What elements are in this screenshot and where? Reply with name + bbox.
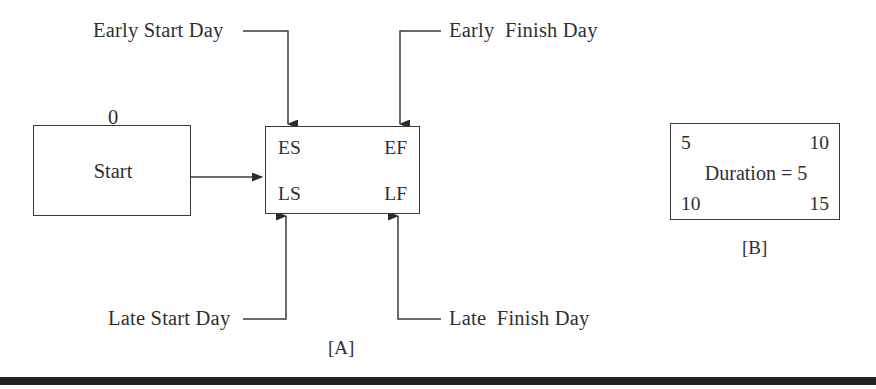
leader-late-finish-day — [398, 216, 441, 319]
activity-node-early-finish-code: EF — [384, 138, 407, 158]
example-node-late-finish: 15 — [810, 194, 830, 214]
activity-node[interactable]: ES EF LS LF — [265, 126, 420, 214]
start-node-label: Start — [34, 126, 192, 217]
start-node[interactable]: Start — [33, 125, 191, 216]
example-node[interactable]: 5 10 Duration = 5 10 15 — [670, 123, 840, 220]
example-node-late-start: 10 — [681, 194, 701, 214]
diagram-canvas: Early Start Day Early Finish Day Late St… — [0, 0, 876, 389]
activity-node-late-finish-code: LF — [384, 184, 407, 204]
activity-node-late-start-code: LS — [278, 184, 301, 204]
panel-a-caption: [A] — [328, 338, 354, 357]
callout-late-finish-day: Late Finish Day — [449, 308, 589, 329]
page-bottom-rule — [0, 377, 876, 385]
panel-b-caption: [B] — [742, 238, 767, 257]
callout-late-start-day: Late Start Day — [108, 308, 230, 329]
callout-early-finish-day: Early Finish Day — [449, 20, 598, 41]
callout-early-start-day: Early Start Day — [93, 20, 224, 41]
leader-late-start-day — [243, 216, 286, 319]
leader-early-start-day — [243, 31, 288, 124]
leader-early-finish-day — [400, 31, 441, 124]
activity-node-early-start-code: ES — [278, 138, 301, 158]
